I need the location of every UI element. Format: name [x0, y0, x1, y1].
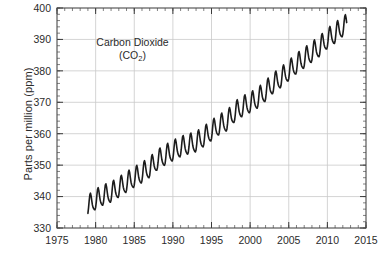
co2-chart-figure: 197519801985199019952000200520102015 330…: [0, 0, 383, 255]
chart-title: Carbon Dioxide (CO2): [80, 36, 185, 65]
x-tick-label: 2015: [354, 234, 378, 246]
y-tick-label: 340: [33, 190, 51, 202]
chart-canvas: 197519801985199019952000200520102015 330…: [0, 0, 383, 255]
formula-prefix: (CO: [119, 49, 138, 61]
x-tick-label: 1995: [200, 234, 224, 246]
x-tick-label: 1975: [45, 234, 69, 246]
y-tick-label: 350: [33, 159, 51, 171]
chart-title-line2: (CO2): [80, 49, 185, 65]
x-tick-label: 1985: [123, 234, 147, 246]
y-axis-tick-labels: 330340350360370380390400: [33, 2, 51, 234]
y-tick-label: 380: [33, 65, 51, 77]
formula-suffix: ): [142, 49, 146, 61]
x-tick-label: 2005: [277, 234, 301, 246]
y-tick-label: 400: [33, 2, 51, 14]
y-tick-label: 370: [33, 96, 51, 108]
y-tick-label: 360: [33, 128, 51, 140]
y-axis-label: Parts per million (ppm): [22, 44, 34, 204]
x-tick-label: 2000: [238, 234, 262, 246]
y-tick-label: 390: [33, 33, 51, 45]
x-tick-label: 2010: [316, 234, 340, 246]
chart-title-line1: Carbon Dioxide: [96, 36, 168, 48]
x-axis-tick-labels: 197519801985199019952000200520102015: [45, 234, 378, 246]
y-tick-label: 330: [33, 222, 51, 234]
x-tick-label: 1980: [84, 234, 108, 246]
x-tick-label: 1990: [161, 234, 185, 246]
